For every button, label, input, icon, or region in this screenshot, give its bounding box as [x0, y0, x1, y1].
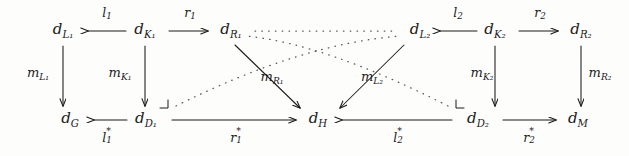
edge-label-l2-star: l2*2	[393, 132, 403, 145]
node-dD1: dD₁	[135, 111, 157, 128]
node-dD2: dD₂	[467, 111, 489, 128]
pushout-marker-left	[160, 100, 168, 108]
edge-label-mL1: mL₁	[27, 66, 49, 82]
node-dH: dH	[309, 111, 328, 128]
node-dR2: dR₂	[570, 22, 591, 39]
edge-label-r1-star: r2*1	[230, 132, 242, 145]
edge-label-r1: r1	[184, 7, 196, 21]
edge-label-r2: r2	[534, 7, 546, 21]
edge-label-l2: l2	[453, 7, 463, 21]
edge-label-l1-star: l2*1	[102, 132, 112, 145]
node-dR1: dR₁	[220, 22, 241, 39]
node-dK2: dK₂	[484, 22, 505, 39]
edge-label-mR2: mR₂	[589, 66, 612, 82]
node-dL2: dL₂	[410, 22, 430, 39]
edge-label-mK1: mK₁	[109, 66, 132, 82]
edge-label-mK2: mK₂	[471, 66, 494, 82]
edge-label-r2-star: r2*2	[523, 132, 535, 145]
node-dM: dM	[568, 111, 588, 128]
edge-label-l1: l1	[102, 7, 112, 21]
edge-label-mR1: mR₁	[261, 70, 284, 86]
node-dG: dG	[61, 111, 79, 128]
node-dK1: dK₁	[134, 22, 155, 39]
edge-label-mL2: mL₂	[361, 70, 383, 86]
node-dL1: dL₁	[53, 22, 73, 39]
pushout-marker-right	[456, 100, 464, 108]
commutative-diagram: dL₁ dK₁ dR₁ dL₂ dK₂ dR₂ dG dD₁ dH dD₂ dM…	[0, 0, 629, 156]
